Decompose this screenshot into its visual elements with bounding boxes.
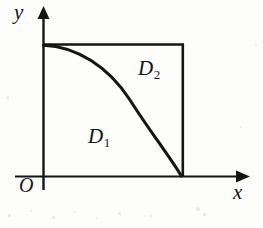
y-axis-label: y [14, 2, 23, 23]
figure-drawing [0, 0, 263, 228]
boundary-curve [44, 45, 182, 176]
region-d2-letter: D [138, 56, 153, 80]
y-axis-arrowhead [38, 6, 50, 19]
region-d1-letter: D [88, 124, 103, 148]
region-label-d1: D1 [88, 126, 110, 149]
region-label-d2: D2 [138, 58, 160, 81]
figure-canvas: y x O D1 D2 [0, 0, 263, 228]
origin-label: O [19, 175, 33, 195]
region-d1-subscript: 1 [104, 135, 111, 150]
region-d2-subscript: 2 [154, 67, 161, 82]
x-axis-label: x [233, 182, 242, 203]
